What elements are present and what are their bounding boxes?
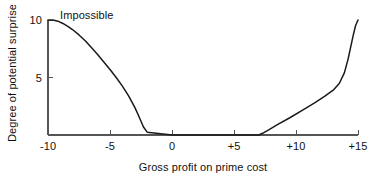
x-tick-label-minus5: -5 <box>105 140 115 152</box>
potential-surprise-curve <box>48 20 358 135</box>
axes-group <box>48 20 358 135</box>
x-tick-label-plus10: +10 <box>287 140 306 152</box>
y-axis-ticks <box>48 20 53 78</box>
y-tick-label-5: 5 <box>36 72 42 84</box>
y-axis-title: Degree of potential surprise <box>6 0 18 148</box>
x-tick-label-minus10: -10 <box>40 140 56 152</box>
x-tick-label-zero: 0 <box>169 140 175 152</box>
x-axis-title: Gross profit on prime cost <box>139 161 268 173</box>
x-tick-label-plus5: +5 <box>228 140 241 152</box>
annotation-impossible: Impossible <box>60 9 114 21</box>
line-chart-canvas <box>0 0 379 180</box>
x-tick-label-plus15: +15 <box>349 140 368 152</box>
chart-figure: 10 5 -10 -5 0 +5 +10 +15 Gross profit on… <box>0 0 379 180</box>
y-tick-label-10: 10 <box>30 14 42 26</box>
